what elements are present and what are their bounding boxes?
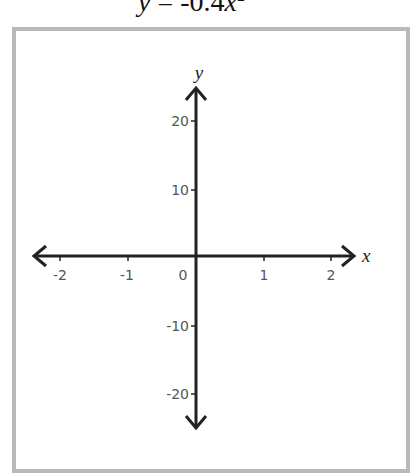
x-tick-label: -2: [53, 267, 67, 283]
y-tick-label: -20: [166, 386, 189, 402]
x-tick-label: -1: [120, 267, 134, 283]
y-tick-label: 10: [171, 182, 189, 198]
y-axis-label: y: [193, 62, 204, 83]
origin-label: 0: [179, 267, 188, 283]
y-tick-label: -10: [166, 318, 189, 334]
x-tick-label: 1: [260, 267, 269, 283]
x-axis-label: x: [361, 245, 371, 266]
y-tick-label: 20: [171, 113, 189, 129]
x-tick-label: 2: [327, 267, 336, 283]
